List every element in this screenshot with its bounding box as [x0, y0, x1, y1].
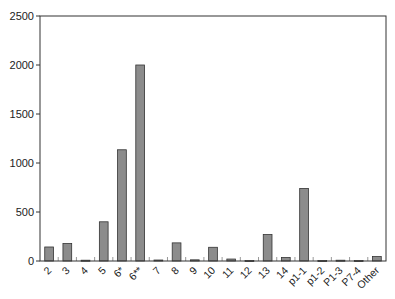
bar-chart: 05001000150020002500 23456*6**7891011121… — [0, 0, 395, 299]
x-tick-label: 10 — [201, 264, 218, 281]
x-tick-label: 5 — [96, 264, 109, 277]
x-tick-label: 8 — [168, 264, 181, 277]
x-tick-label: 9 — [187, 264, 200, 277]
y-tick-label: 500 — [16, 206, 34, 218]
y-axis: 05001000150020002500 — [10, 10, 40, 267]
bar — [63, 244, 72, 261]
bar — [300, 188, 309, 261]
bar — [136, 65, 145, 261]
x-tick-label: 12 — [237, 264, 254, 281]
y-tick-label: 1000 — [10, 157, 34, 169]
bar — [281, 258, 290, 261]
bars — [45, 65, 382, 262]
plot-frame — [40, 16, 386, 261]
x-tick-label: 2 — [41, 264, 54, 277]
x-tick-label: p1-1 — [285, 264, 308, 287]
x-tick-label: 6** — [126, 264, 144, 282]
bar — [45, 247, 54, 261]
bar — [373, 257, 382, 261]
x-tick-label: 6* — [111, 264, 127, 280]
x-tick-label: 7 — [150, 264, 163, 277]
y-tick-label: 2000 — [10, 59, 34, 71]
x-tick-label: 11 — [219, 264, 235, 280]
y-tick-label: 1500 — [10, 108, 34, 120]
x-tick-label: 13 — [255, 264, 272, 281]
y-tick-label: 0 — [28, 255, 34, 267]
x-tick-label: p1-2 — [303, 264, 326, 287]
bar — [209, 247, 218, 261]
chart-container: 05001000150020002500 23456*6**7891011121… — [0, 0, 395, 299]
bar — [99, 222, 108, 261]
bar — [118, 150, 127, 261]
x-tick-label: 3 — [59, 264, 72, 277]
x-tick-label: 4 — [77, 264, 90, 277]
x-axis: 23456*6**7891011121314p1-1p1-2P1-3P7-4Ot… — [41, 257, 382, 291]
bar — [263, 235, 272, 261]
bar — [172, 243, 181, 261]
y-tick-label: 2500 — [10, 10, 34, 22]
